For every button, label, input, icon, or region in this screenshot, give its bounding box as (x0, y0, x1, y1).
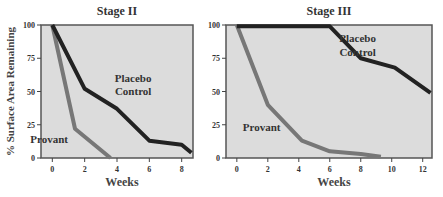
y-tick-label: 50 (27, 88, 35, 97)
y-tick-label: 100 (23, 21, 35, 30)
annotation-label: Provant (30, 133, 68, 145)
x-tick-label: 6 (147, 165, 151, 174)
x-tick-label: 6 (328, 165, 332, 174)
y-tick-label: 100 (208, 21, 220, 30)
y-tick-label: 0 (216, 154, 220, 163)
x-tick-label: 12 (419, 165, 427, 174)
y-tick-label: 50 (212, 88, 220, 97)
plot-area (226, 25, 432, 158)
chart-canvas: Stage II025507510002468Weeks% Surface Ar… (0, 0, 443, 197)
x-tick-label: 4 (297, 165, 301, 174)
annotation-label: Placebo (115, 72, 152, 84)
annotation-label: Provant (243, 121, 281, 133)
x-tick-label: 10 (388, 165, 396, 174)
x-tick-label: 0 (50, 165, 54, 174)
chart-panel-1: Stage II025507510002468Weeks% Surface Ar… (4, 4, 193, 189)
x-tick-label: 2 (266, 165, 270, 174)
chart-title: Stage III (306, 4, 351, 18)
x-tick-label: 8 (359, 165, 363, 174)
x-tick-label: 2 (83, 165, 87, 174)
annotation-label: Control (339, 46, 375, 58)
chart-title: Stage II (97, 4, 138, 18)
annotation-label: Placebo (339, 32, 376, 44)
x-tick-label: 0 (235, 165, 239, 174)
y-axis-label: % Surface Area Remaining (4, 26, 16, 156)
chart-panel-2: Stage III0255075100024681012WeeksPlacebo… (208, 4, 432, 189)
annotation-label: Control (115, 85, 151, 97)
figure: Stage II025507510002468Weeks% Surface Ar… (0, 0, 443, 197)
y-tick-label: 75 (212, 54, 220, 63)
x-tick-label: 4 (115, 165, 119, 174)
y-tick-label: 0 (31, 154, 35, 163)
x-axis-label: Weeks (105, 175, 139, 189)
x-tick-label: 8 (180, 165, 184, 174)
y-tick-label: 25 (27, 121, 35, 130)
y-tick-label: 25 (212, 121, 220, 130)
x-axis-label: Weeks (317, 175, 351, 189)
y-tick-label: 75 (27, 54, 35, 63)
